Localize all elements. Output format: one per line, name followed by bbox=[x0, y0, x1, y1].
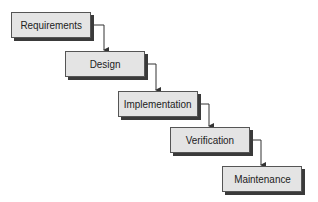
waterfall-diagram: Requirements Design Implementation Verif… bbox=[0, 0, 318, 202]
stage-implementation: Implementation bbox=[118, 91, 198, 117]
stage-label: Requirements bbox=[20, 19, 82, 31]
stage-requirements: Requirements bbox=[11, 12, 91, 38]
stage-label: Design bbox=[90, 58, 121, 70]
stage-label: Implementation bbox=[124, 98, 192, 110]
stage-label: Maintenance bbox=[234, 173, 291, 185]
arrow-design-to-implementation bbox=[145, 64, 156, 90]
stage-maintenance: Maintenance bbox=[222, 166, 302, 192]
stage-label: Verification bbox=[186, 134, 234, 146]
stage-verification: Verification bbox=[170, 127, 250, 153]
arrow-requirements-to-design bbox=[93, 25, 104, 50]
arrow-verification-to-maintenance bbox=[250, 140, 261, 165]
stage-design: Design bbox=[65, 51, 145, 77]
arrow-implementation-to-verification bbox=[198, 104, 209, 126]
